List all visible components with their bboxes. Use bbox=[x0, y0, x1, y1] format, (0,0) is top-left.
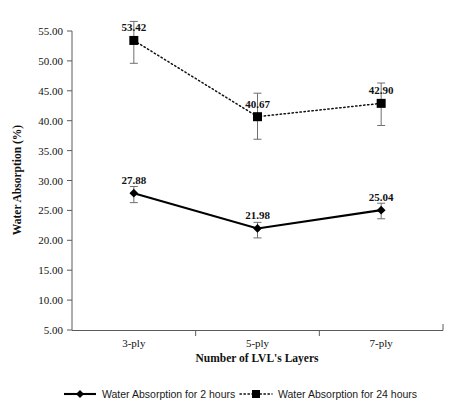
x-axis-title: Number of LVL's Layers bbox=[196, 352, 320, 365]
y-tick-label: 5.00 bbox=[44, 324, 64, 336]
y-tick-label: 45.00 bbox=[38, 85, 63, 97]
y-axis-ticks: 5.0010.0015.0020.0025.0030.0035.0040.004… bbox=[38, 25, 72, 336]
data-point-label: 27.88 bbox=[121, 174, 146, 186]
x-category-label: 7-ply bbox=[370, 337, 394, 349]
x-category-label: 5-ply bbox=[246, 337, 270, 349]
y-tick-label: 15.00 bbox=[38, 264, 63, 276]
data-point-marker bbox=[253, 224, 262, 233]
y-axis-title: Water Absorption (%) bbox=[11, 125, 24, 235]
y-tick-label: 10.00 bbox=[38, 294, 63, 306]
y-axis-title-group: Water Absorption (%) bbox=[11, 125, 24, 235]
y-tick-label: 30.00 bbox=[38, 175, 63, 187]
data-point-label: 53.42 bbox=[121, 21, 146, 33]
x-category-label: 3-ply bbox=[122, 337, 146, 349]
y-tick-label: 20.00 bbox=[38, 234, 63, 246]
chart-container: Water Absorption (%) 5.0010.0015.0020.00… bbox=[0, 0, 463, 414]
data-point-marker bbox=[129, 189, 138, 198]
x-axis-category-labels: 3-ply5-ply7-ply bbox=[122, 337, 393, 349]
legend-marker-square-icon bbox=[252, 390, 260, 398]
series-2: 53.4240.6742.90 bbox=[121, 21, 394, 139]
data-point-label: 40.67 bbox=[245, 98, 270, 110]
data-point-marker bbox=[253, 112, 262, 121]
data-point-marker bbox=[377, 99, 386, 108]
data-point-marker bbox=[377, 206, 386, 215]
series-1: 27.8821.9825.04 bbox=[121, 174, 394, 238]
y-tick-label: 25.00 bbox=[38, 204, 63, 216]
y-tick-label: 50.00 bbox=[38, 55, 63, 67]
legend: Water Absorption for 2 hours Water Absor… bbox=[64, 388, 417, 400]
line-chart: Water Absorption (%) 5.0010.0015.0020.00… bbox=[0, 0, 463, 414]
data-point-label: 21.98 bbox=[245, 209, 270, 221]
series-group: 27.8821.9825.0453.4240.6742.90 bbox=[121, 21, 394, 237]
legend-marker-diamond-icon bbox=[76, 390, 84, 398]
legend-label-series-2: Water Absorption for 24 hours bbox=[278, 388, 417, 400]
legend-label-series-1: Water Absorption for 2 hours bbox=[102, 388, 235, 400]
y-tick-label: 35.00 bbox=[38, 145, 63, 157]
data-point-marker bbox=[129, 36, 138, 45]
data-point-label: 25.04 bbox=[369, 191, 394, 203]
y-tick-label: 55.00 bbox=[38, 25, 63, 37]
data-point-label: 42.90 bbox=[369, 84, 394, 96]
y-tick-label: 40.00 bbox=[38, 115, 63, 127]
